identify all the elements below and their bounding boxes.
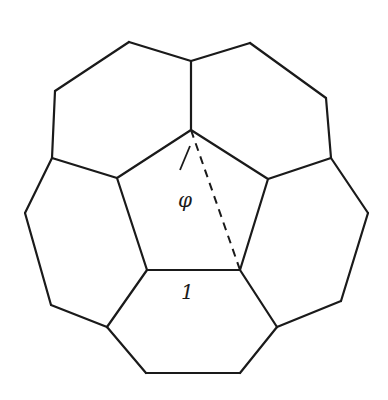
edge-line bbox=[268, 158, 331, 179]
edge-line bbox=[240, 327, 277, 373]
edge-line bbox=[25, 213, 51, 305]
edge-line bbox=[55, 42, 129, 91]
phi-stroke bbox=[180, 146, 190, 170]
edge-line bbox=[25, 158, 52, 213]
edge-line bbox=[51, 305, 107, 327]
diagonal-dashed-line bbox=[191, 130, 240, 270]
edge-line bbox=[107, 327, 146, 373]
edge-line bbox=[129, 42, 191, 61]
edge-line bbox=[326, 98, 331, 158]
edge-line bbox=[250, 43, 326, 98]
edge-line bbox=[277, 301, 341, 327]
diagram-canvas: φ 1 bbox=[0, 0, 388, 400]
diagonal-label: φ bbox=[178, 190, 192, 210]
edge-line bbox=[107, 270, 147, 327]
edge-line bbox=[240, 270, 277, 327]
central-pentagon bbox=[117, 130, 268, 270]
edge-line bbox=[191, 43, 250, 61]
polyhedron-figure bbox=[0, 0, 388, 400]
edge-line bbox=[341, 213, 368, 301]
edge-line bbox=[52, 91, 55, 158]
edge-line bbox=[331, 158, 368, 213]
edge-length-label: 1 bbox=[181, 282, 194, 302]
edge-line bbox=[52, 158, 117, 178]
